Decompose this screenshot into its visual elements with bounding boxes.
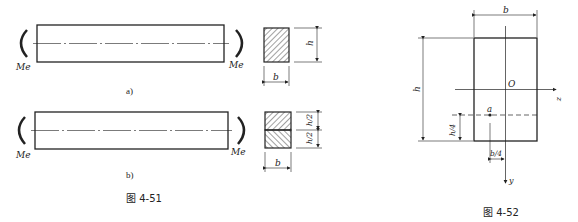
width-label-b: b	[275, 158, 281, 168]
origin-label: O	[508, 79, 516, 89]
height-label: h	[412, 86, 422, 92]
moment-left-arrow-icon	[21, 30, 27, 57]
moment-right-arrow-icon	[236, 30, 242, 57]
quarter-height-label: h/4	[448, 124, 457, 136]
quarter-width-label: b/4	[490, 149, 502, 158]
subfigure-label-a: a)	[126, 86, 133, 96]
moment-left-arrow-icon	[19, 117, 25, 144]
y-axis-label: y	[508, 176, 514, 185]
height-label-a: h	[305, 40, 315, 46]
diagram-canvas: Me Me h b a) Me Me h/2 h/2 b b)	[0, 0, 578, 222]
upper-height-label-b: h/2	[305, 114, 314, 126]
figure-4-51b: Me Me h/2 h/2 b b)	[15, 112, 322, 180]
z-axis-label: z	[555, 96, 564, 102]
moment-right-label: Me	[230, 147, 246, 157]
subfigure-label-b: b)	[126, 170, 134, 180]
width-label-a: b	[273, 72, 279, 82]
moment-right-arrow-icon	[238, 117, 244, 144]
section-b-lower	[265, 130, 291, 148]
section-a	[264, 28, 289, 62]
figure-caption-4-52: 图 4-52	[483, 207, 519, 218]
width-label: b	[503, 5, 509, 15]
moment-left-label: Me	[15, 62, 31, 72]
figure-4-52: b h z y O a h/4 b/4	[412, 5, 564, 185]
section-b-upper	[265, 112, 291, 130]
figure-caption-4-51: 图 4-51	[126, 193, 162, 204]
lower-height-label-b: h/2	[305, 132, 314, 144]
point-a-label: a	[487, 104, 492, 114]
figure-4-51a: Me Me h b a)	[15, 25, 322, 96]
moment-right-label: Me	[228, 60, 244, 70]
moment-left-label: Me	[15, 150, 31, 160]
